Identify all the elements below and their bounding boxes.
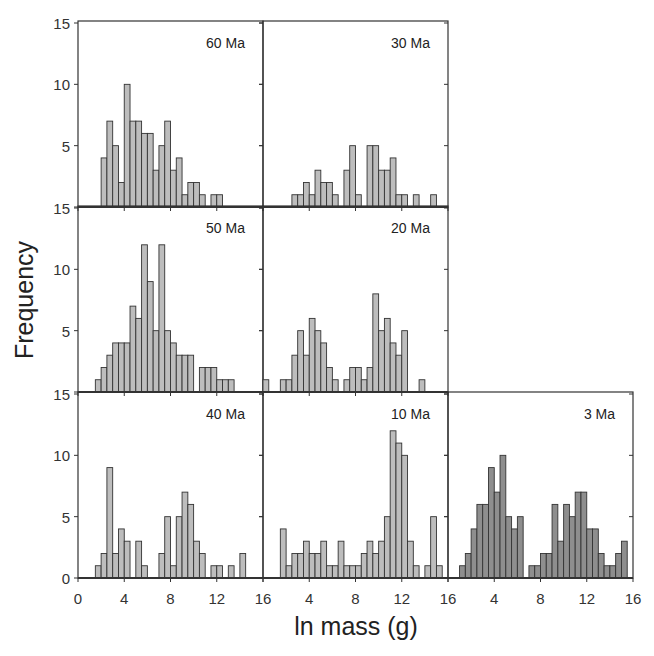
histogram-bar — [199, 367, 205, 392]
histogram-bar — [575, 492, 581, 578]
histogram-bar — [384, 170, 390, 207]
histogram-bar — [303, 355, 309, 392]
histogram-bar — [298, 553, 304, 578]
y-tick-label: 10 — [53, 261, 70, 278]
panel-label: 60 Ma — [206, 35, 245, 51]
x-tick-label: 4 — [120, 590, 128, 607]
x-tick-label: 16 — [255, 590, 272, 607]
histogram-bar — [286, 566, 292, 578]
panel-20-ma: 20 Ma — [259, 206, 448, 396]
histogram-bar — [228, 566, 234, 578]
histogram-bar — [332, 195, 338, 207]
y-axis: 1510515105151050 — [53, 15, 70, 587]
histogram-bar — [130, 306, 136, 392]
x-tick-label: 4 — [305, 590, 313, 607]
histogram-bar — [587, 529, 593, 578]
histogram-bar — [621, 541, 627, 578]
histogram-bar — [564, 504, 570, 578]
histogram-bar — [425, 566, 431, 578]
y-tick-label: 5 — [62, 323, 70, 340]
histogram-bar — [402, 455, 408, 578]
histogram-bar — [101, 553, 107, 578]
histogram-bar — [292, 553, 298, 578]
y-tick-label: 10 — [53, 76, 70, 93]
histogram-bar — [124, 343, 130, 392]
histogram-bar — [107, 355, 113, 392]
histogram-bar — [182, 195, 188, 207]
histogram-bar — [113, 146, 119, 207]
histogram-bar — [379, 331, 385, 392]
histogram-bar — [471, 529, 477, 578]
histogram-bar — [217, 195, 223, 207]
histogram-bar — [292, 195, 298, 207]
histogram-bar — [194, 541, 200, 578]
histogram-bar — [95, 566, 101, 578]
histogram-bar — [298, 195, 304, 207]
panel-label: 30 Ma — [391, 35, 430, 51]
histogram-bar — [350, 367, 356, 392]
histogram-bar — [188, 504, 194, 578]
histogram-bar — [205, 367, 211, 392]
panel-60-ma: 60 Ma — [74, 21, 263, 211]
panel-10-ma: 10 Ma — [259, 392, 448, 582]
histogram-bar — [136, 541, 142, 578]
histogram-bar — [136, 318, 142, 392]
histogram-bar — [569, 517, 575, 578]
histogram-bar — [350, 146, 356, 207]
histogram-bar — [546, 553, 552, 578]
histogram-bar — [199, 195, 205, 207]
histogram-bar — [136, 121, 142, 207]
y-tick-label: 0 — [62, 570, 70, 587]
histogram-bar — [113, 343, 119, 392]
histogram-bar — [541, 553, 547, 578]
histogram-bar — [217, 380, 223, 392]
x-tick-label: 12 — [578, 590, 595, 607]
histogram-bar — [344, 170, 350, 207]
y-tick-label: 5 — [62, 138, 70, 155]
x-tick-label: 16 — [625, 590, 642, 607]
panel-label: 3 Ma — [584, 406, 615, 422]
histogram-bar — [107, 468, 113, 578]
x-tick-label: 12 — [393, 590, 410, 607]
histogram-bar — [101, 158, 107, 207]
histogram-bar — [529, 566, 535, 578]
histogram-bar — [321, 541, 327, 578]
histogram-bar — [211, 367, 217, 392]
histogram-bar — [344, 566, 350, 578]
x-tick-label: 8 — [351, 590, 359, 607]
histogram-bar — [118, 182, 124, 207]
histogram-bar — [182, 355, 188, 392]
x-axis: 0481216481216481216 — [74, 590, 642, 607]
histogram-bar — [396, 195, 402, 207]
panel-40-ma: 40 Ma — [74, 392, 263, 582]
y-tick-label: 15 — [53, 15, 70, 32]
histogram-bar — [165, 331, 171, 392]
histogram-bar — [616, 553, 622, 578]
histogram-bar — [338, 541, 344, 578]
histogram-bar — [327, 566, 333, 578]
histogram-bar — [321, 343, 327, 392]
histogram-bar — [431, 195, 437, 207]
histogram-bar — [517, 517, 523, 578]
histogram-bar — [535, 566, 541, 578]
y-tick-label: 15 — [53, 200, 70, 217]
histogram-bar — [558, 541, 564, 578]
histogram-bar — [118, 529, 124, 578]
histogram-bar — [460, 566, 466, 578]
histogram-bar — [124, 541, 130, 578]
histogram-bar — [211, 566, 217, 578]
histogram-bar — [165, 517, 171, 578]
histogram-bar — [147, 282, 153, 392]
histogram-bar — [228, 380, 234, 392]
histogram-bar — [292, 355, 298, 392]
histogram-bar — [188, 355, 194, 392]
y-tick-label: 5 — [62, 509, 70, 526]
histogram-bar — [488, 468, 494, 578]
histogram-bar — [332, 566, 338, 578]
histogram-bar — [419, 380, 425, 392]
histogram-bar — [315, 170, 321, 207]
x-tick-label: 12 — [208, 590, 225, 607]
histogram-bar — [315, 553, 321, 578]
histogram-bar — [321, 182, 327, 207]
histogram-bar — [512, 529, 518, 578]
